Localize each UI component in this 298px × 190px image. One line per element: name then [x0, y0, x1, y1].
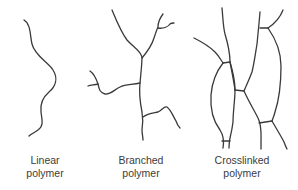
label-linear-line1: Linear	[0, 154, 90, 167]
label-crosslinked-line1: Crosslinked	[197, 154, 287, 167]
label-linear-line2: polymer	[0, 167, 90, 180]
branched-polymer-chain	[88, 10, 180, 140]
linear-polymer-chain	[24, 20, 56, 136]
label-crosslinked-line2: polymer	[197, 167, 287, 180]
label-branched-line1: Branched	[96, 154, 186, 167]
label-branched-polymer: Branched polymer	[96, 154, 186, 180]
label-linear-polymer: Linear polymer	[0, 154, 90, 180]
crosslinked-polymer-network	[194, 8, 287, 149]
label-crosslinked-polymer: Crosslinked polymer	[197, 154, 287, 180]
label-branched-line2: polymer	[96, 167, 186, 180]
